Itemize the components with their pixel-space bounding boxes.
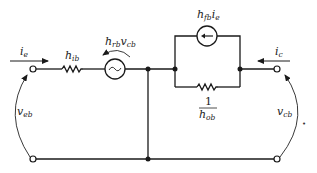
output-top-terminal (274, 66, 280, 72)
output-bottom-terminal (274, 156, 280, 162)
label-hib: hib (65, 49, 79, 63)
wire-parallel-left (175, 36, 197, 87)
label-input-voltage: veb (17, 105, 33, 119)
label-reverse-source: hrbvcb (105, 35, 136, 49)
circuit-diagram: ie hib hrbvcb hfbie ic 1 hob veb vcb • (0, 0, 317, 173)
label-input-current: ie (20, 45, 29, 59)
wire-parallel-right (217, 36, 240, 87)
label-hob-numerator: 1 (205, 95, 212, 108)
resistor-hob-icon (197, 84, 218, 90)
label-output-voltage: vcb (277, 105, 292, 119)
input-top-terminal (30, 66, 36, 72)
resistor-hib-icon (62, 66, 83, 72)
rotation-arrow-icon (103, 50, 130, 57)
label-output-current: ic (275, 45, 284, 59)
current-source-icon (197, 26, 217, 46)
input-bottom-terminal (30, 156, 36, 162)
ac-voltage-source-icon (105, 59, 125, 79)
stray-mark: • (302, 120, 306, 128)
label-forward-source: hfbie (197, 8, 220, 22)
label-hob-denominator: hob (199, 108, 216, 122)
